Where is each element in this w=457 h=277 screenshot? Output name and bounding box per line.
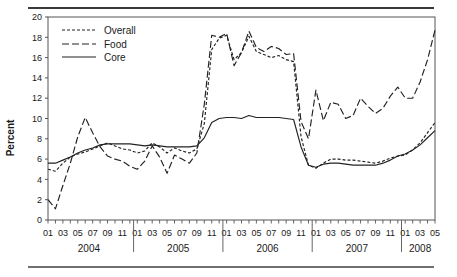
y-tick-label: 18 — [32, 33, 42, 43]
x-tick-label: 01 — [43, 228, 53, 238]
y-tick-label: 12 — [32, 93, 42, 103]
x-tick-label: 03 — [58, 228, 68, 238]
x-axis-year-label: 2006 — [256, 243, 279, 254]
chart-legend: OverallFoodCore — [62, 25, 136, 63]
x-tick-label: 07 — [356, 228, 366, 238]
x-axis-year-label: 2007 — [346, 243, 369, 254]
legend-label-overall: Overall — [104, 25, 136, 36]
y-axis: 02468101214161820 — [32, 12, 48, 225]
footer-rule — [28, 266, 434, 268]
y-axis-title: Percent — [5, 119, 16, 156]
x-tick-label: 05 — [430, 228, 440, 238]
x-tick-label: 09 — [103, 228, 113, 238]
y-tick-label: 0 — [37, 215, 42, 225]
y-tick-label: 8 — [37, 134, 42, 144]
chart-figure: 02468101214161820 0103050709110103050709… — [0, 0, 457, 277]
x-tick-label: 07 — [88, 228, 98, 238]
x-tick-label: 09 — [281, 228, 291, 238]
x-tick-label: 03 — [236, 228, 246, 238]
y-tick-label: 10 — [32, 114, 42, 124]
x-tick-label: 07 — [266, 228, 276, 238]
line-chart: 02468101214161820 0103050709110103050709… — [0, 0, 457, 277]
x-tick-label: 03 — [415, 228, 425, 238]
y-axis-label: Percent — [5, 119, 16, 156]
series-line-core — [48, 115, 435, 167]
x-tick-label: 07 — [177, 228, 187, 238]
y-tick-label: 16 — [32, 53, 42, 63]
x-tick-label: 03 — [147, 228, 157, 238]
legend-label-food: Food — [104, 39, 127, 50]
x-tick-label: 09 — [192, 228, 202, 238]
x-tick-label: 09 — [370, 228, 380, 238]
y-tick-label: 4 — [37, 175, 42, 185]
x-axis-year-label: 2008 — [409, 243, 432, 254]
y-tick-label: 6 — [37, 154, 42, 164]
x-tick-label: 05 — [162, 228, 172, 238]
x-tick-label: 05 — [341, 228, 351, 238]
x-axis-year-label: 2005 — [167, 243, 190, 254]
x-tick-label: 11 — [207, 228, 216, 238]
header-rule — [28, 7, 434, 9]
x-tick-label: 05 — [73, 228, 83, 238]
x-tick-label: 11 — [386, 228, 395, 238]
y-tick-label: 20 — [32, 12, 42, 22]
x-tick-label: 11 — [296, 228, 305, 238]
legend-label-core: Core — [104, 52, 126, 63]
x-tick-label: 11 — [118, 228, 127, 238]
y-tick-label: 14 — [32, 73, 42, 83]
x-axis-year-label: 2004 — [78, 243, 101, 254]
x-axis: 0103050709110103050709110103050709110103… — [43, 220, 440, 254]
x-tick-label: 05 — [251, 228, 261, 238]
x-tick-label: 03 — [326, 228, 336, 238]
y-tick-label: 2 — [37, 195, 42, 205]
